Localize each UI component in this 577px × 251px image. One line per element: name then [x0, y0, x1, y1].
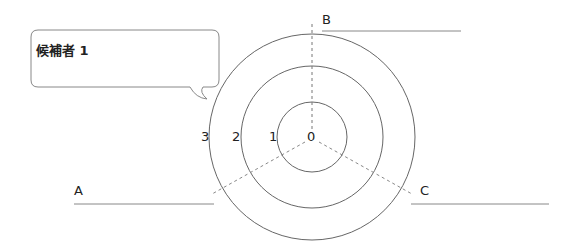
axis-c-dashed	[319, 142, 412, 194]
diagram-canvas	[0, 0, 577, 251]
center-label: 0	[307, 130, 315, 143]
callout-text: 候補者 1	[36, 40, 89, 59]
axis-label-a: A	[74, 184, 83, 197]
ring-label-1: 1	[269, 130, 277, 143]
ring-label-2: 2	[232, 130, 240, 143]
axis-a-dashed	[212, 142, 305, 194]
ring-label-3: 3	[201, 130, 209, 143]
axis-label-b: B	[322, 13, 331, 26]
axis-label-c: C	[420, 184, 429, 197]
